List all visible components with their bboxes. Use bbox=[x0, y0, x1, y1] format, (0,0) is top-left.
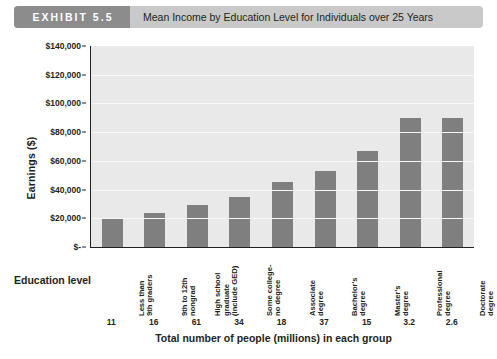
exhibit-header-banner: EXHIBIT 5.5 Mean Income by Education Lev… bbox=[14, 6, 483, 28]
y-axis-tick-mark bbox=[82, 218, 86, 219]
y-axis-tick-mark bbox=[82, 132, 86, 133]
exhibit-title: Mean Income by Education Level for Indiv… bbox=[130, 6, 483, 28]
bar bbox=[272, 182, 293, 247]
bar bbox=[102, 218, 123, 247]
y-axis-tick-mark bbox=[82, 247, 86, 248]
x-axis-title: Total number of people (millions) in eac… bbox=[0, 332, 497, 344]
group-count-value: 11 bbox=[91, 317, 131, 327]
bar bbox=[442, 118, 463, 247]
gridline bbox=[91, 103, 474, 104]
bar bbox=[357, 151, 378, 247]
x-axis-category-label: Less than 9th graders bbox=[115, 250, 155, 316]
x-axis-category-labels: Less than 9th graders9th to 12th nongrad… bbox=[90, 250, 473, 316]
bar bbox=[315, 171, 336, 247]
y-axis-tick-label: $20,000 bbox=[50, 213, 81, 223]
group-counts-row: 111661341837153.22.6 bbox=[90, 317, 473, 331]
y-axis-tick-mark bbox=[82, 103, 86, 104]
x-axis-category-label: Professional degree bbox=[413, 250, 453, 316]
exhibit-badge: EXHIBIT 5.5 bbox=[14, 6, 130, 28]
y-axis-tick-label: $60,000 bbox=[50, 156, 81, 166]
plot-area bbox=[90, 46, 474, 248]
y-axis-tick-label: $140,000 bbox=[46, 41, 81, 51]
group-count-value: 16 bbox=[134, 317, 174, 327]
group-count-value: 18 bbox=[262, 317, 302, 327]
gridline bbox=[91, 161, 474, 162]
education-level-label: Education level bbox=[14, 274, 91, 286]
x-axis-category-label: High school graduate (include GED) bbox=[200, 250, 240, 316]
y-axis-tick-mark bbox=[82, 46, 86, 47]
gridline bbox=[91, 132, 474, 133]
group-count-value: 2.6 bbox=[432, 317, 472, 327]
group-count-value: 61 bbox=[176, 317, 216, 327]
x-axis-category-label: Associate degree bbox=[286, 250, 326, 316]
y-axis-tick-label: $40,000 bbox=[50, 185, 81, 195]
bar bbox=[400, 118, 421, 247]
gridline bbox=[91, 218, 474, 219]
chart-container: Earnings ($) $140,000$120,000$100,000$80… bbox=[0, 34, 497, 359]
group-count-value: 15 bbox=[347, 317, 387, 327]
y-axis-tick-labels: $140,000$120,000$100,000$80,000$60,000$4… bbox=[34, 46, 86, 247]
group-count-value: 37 bbox=[304, 317, 344, 327]
group-count-value: 3.2 bbox=[389, 317, 429, 327]
gridline bbox=[91, 190, 474, 191]
group-count-value: 34 bbox=[219, 317, 259, 327]
x-axis-category-label: Some college- no degree bbox=[243, 250, 283, 316]
x-axis-category-label: Master's degree bbox=[371, 250, 411, 316]
gridline bbox=[91, 75, 474, 76]
bar-series bbox=[91, 46, 474, 247]
y-axis-tick-label: $100,000 bbox=[46, 98, 81, 108]
y-axis-tick-mark bbox=[82, 74, 86, 75]
y-axis-tick-label: $120,000 bbox=[46, 70, 81, 80]
x-axis-category-label: 9th to 12th nongrad bbox=[158, 250, 198, 316]
bar bbox=[229, 197, 250, 247]
exhibit-badge-label: EXHIBIT 5.5 bbox=[31, 11, 114, 23]
y-axis-tick-mark bbox=[82, 189, 86, 190]
y-axis-tick-mark bbox=[82, 160, 86, 161]
x-axis-category-label: Doctorate degree bbox=[456, 250, 496, 316]
x-axis-category-label: Bachelor's degree bbox=[328, 250, 368, 316]
y-axis-tick-label: $- bbox=[73, 242, 81, 252]
y-axis-tick-label: $80,000 bbox=[50, 127, 81, 137]
bar bbox=[187, 205, 208, 247]
